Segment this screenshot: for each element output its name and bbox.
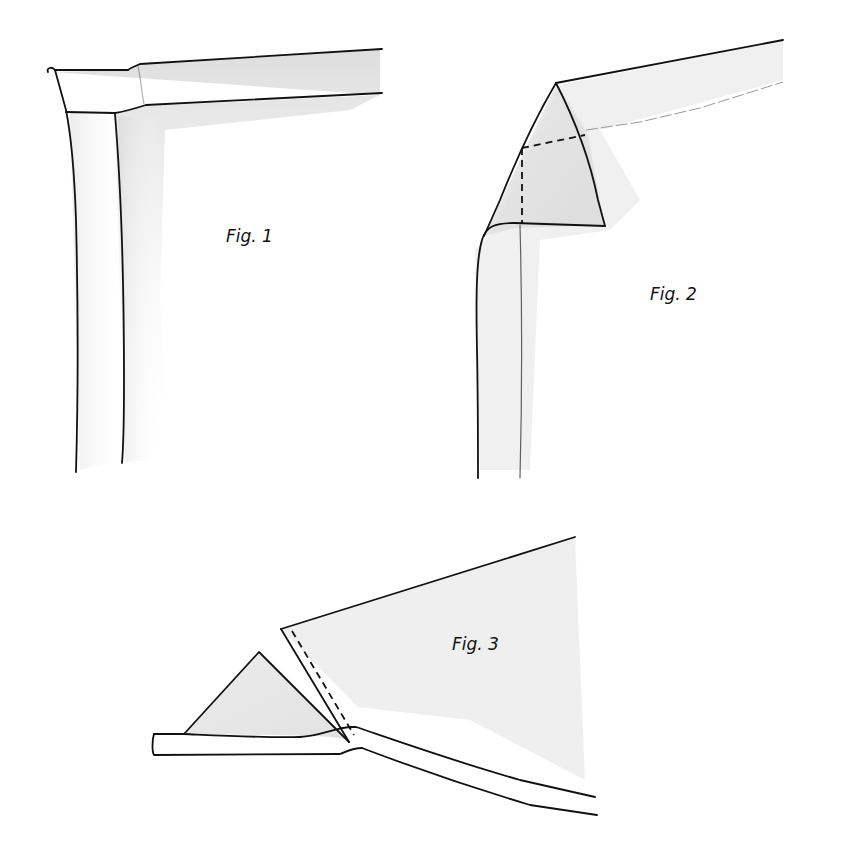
figure-2-label: Fig. 2 — [650, 284, 697, 304]
figure-3-label: Fig. 3 — [452, 634, 499, 654]
figure-3-drawing — [153, 537, 598, 815]
figure-1-drawing — [48, 49, 382, 472]
figure-2-drawing — [475, 40, 783, 478]
illustration-canvas — [0, 0, 845, 865]
figure-1-label: Fig. 1 — [226, 226, 273, 246]
